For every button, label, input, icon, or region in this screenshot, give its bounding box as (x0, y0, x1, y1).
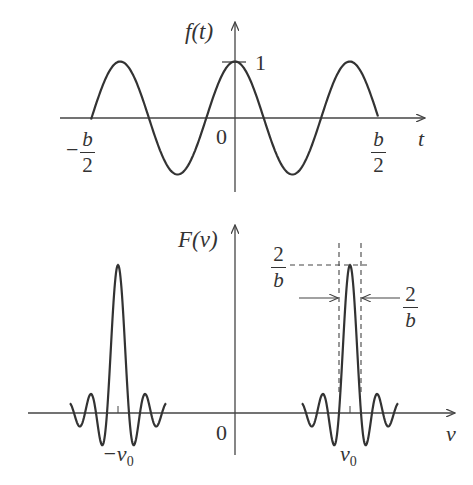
right-limit-den: 2 (373, 155, 384, 176)
sinc-peak-negative (70, 265, 166, 445)
width-label-fraction: 2 b (403, 284, 418, 331)
right-limit-fraction: b 2 (371, 129, 386, 176)
pos-center-sub: 0 (350, 454, 357, 469)
bottom-plot (28, 225, 455, 455)
bottom-origin-label: 0 (216, 422, 227, 444)
peak-value-label: 1 (255, 52, 266, 74)
height-label-num: 2 (273, 244, 284, 265)
bottom-x-label: v (446, 423, 456, 445)
height-label-den: b (273, 270, 284, 291)
left-limit-fraction: b 2 (80, 129, 95, 176)
pos-center-text: v (340, 441, 350, 466)
left-limit-sign: − (66, 139, 78, 161)
left-limit-num: b (82, 129, 93, 150)
sinc-peak-positive (302, 265, 398, 445)
top-origin-label: 0 (216, 126, 227, 148)
neg-center-sub: 0 (127, 454, 134, 469)
width-label-num: 2 (405, 284, 416, 305)
top-x-label: t (418, 128, 424, 150)
neg-center-text: −v (102, 441, 127, 466)
height-label-fraction: 2 b (271, 244, 286, 291)
left-limit-den: 2 (82, 155, 93, 176)
diagram-canvas (0, 0, 473, 485)
pos-center-label: v0 (340, 443, 357, 469)
neg-center-label: −v0 (102, 443, 134, 469)
right-limit-num: b (373, 129, 384, 150)
top-y-label: f(t) (185, 20, 213, 43)
bottom-y-label: F(v) (178, 228, 218, 251)
width-label-den: b (405, 310, 416, 331)
